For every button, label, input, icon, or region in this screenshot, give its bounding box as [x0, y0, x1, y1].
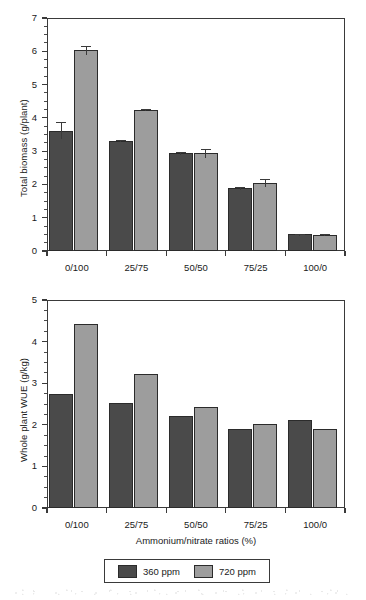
bar-whole-plant-wue-0-100-360ppm: [49, 394, 73, 508]
chart-legend: 360 ppm 720 ppm: [104, 559, 270, 583]
x-category-label: 75/25: [226, 519, 286, 530]
legend-item-360ppm: 360 ppm: [118, 565, 180, 578]
x-category-label: 25/75: [106, 519, 166, 530]
y-tick-label: 0: [21, 503, 37, 513]
legend-item-720ppm: 720 ppm: [194, 565, 256, 578]
y-minor-tick-mark: [44, 497, 47, 498]
y-tick-label: 2: [21, 420, 37, 430]
y-minor-tick-mark: [44, 445, 47, 446]
legend-swatch-720ppm: [194, 565, 213, 578]
y-minor-tick-mark: [44, 476, 47, 477]
y-minor-tick-mark: [44, 456, 47, 457]
figure-two-panel-bar-charts: Total biomass (g/plant)012345670/10025/7…: [0, 0, 366, 600]
bar-whole-plant-wue-50-50-360ppm: [169, 416, 193, 508]
chart-panel-whole-plant-wue: Whole plant WUE (g/kg)0123450/10025/7550…: [0, 0, 366, 600]
bar-whole-plant-wue-25-75-360ppm: [109, 403, 133, 508]
y-tick-label: 1: [21, 461, 37, 471]
x-axis-label-ammonium-nitrate-ratios: Ammonium/nitrate ratios (%): [47, 535, 345, 546]
bar-whole-plant-wue-25-75-720ppm: [134, 374, 158, 508]
x-category-label: 0/100: [47, 519, 107, 530]
y-tick-label: 3: [21, 378, 37, 388]
x-tick-mark: [344, 508, 345, 513]
scan-artifact-band: [0, 586, 366, 600]
y-tick-mark: [42, 383, 47, 384]
bar-whole-plant-wue-75-25-360ppm: [228, 429, 252, 508]
y-tick-mark: [42, 466, 47, 467]
x-tick-mark: [106, 508, 107, 513]
y-tick-label: 4: [21, 337, 37, 347]
y-axis-label-whole-plant-wue: Whole plant WUE (g/kg): [18, 358, 29, 462]
y-tick-mark: [42, 341, 47, 342]
x-tick-mark: [46, 508, 47, 513]
x-tick-mark: [166, 508, 167, 513]
y-minor-tick-mark: [44, 487, 47, 488]
x-category-label: 50/50: [166, 519, 226, 530]
y-tick-mark: [42, 424, 47, 425]
bar-whole-plant-wue-100-0-720ppm: [313, 429, 337, 508]
y-minor-tick-mark: [44, 393, 47, 394]
y-tick-mark: [42, 299, 47, 300]
y-minor-tick-mark: [44, 352, 47, 353]
bar-whole-plant-wue-50-50-720ppm: [194, 407, 218, 508]
y-minor-tick-mark: [44, 362, 47, 363]
y-tick-label: 5: [21, 295, 37, 305]
y-minor-tick-mark: [44, 310, 47, 311]
x-tick-mark: [225, 508, 226, 513]
y-minor-tick-mark: [44, 404, 47, 405]
y-minor-tick-mark: [44, 414, 47, 415]
x-tick-mark: [285, 508, 286, 513]
legend-swatch-360ppm: [118, 565, 137, 578]
y-minor-tick-mark: [44, 372, 47, 373]
legend-label-360ppm: 360 ppm: [143, 566, 180, 577]
bar-whole-plant-wue-75-25-720ppm: [253, 424, 277, 508]
y-minor-tick-mark: [44, 435, 47, 436]
bar-whole-plant-wue-100-0-360ppm: [288, 420, 312, 508]
legend-label-720ppm: 720 ppm: [219, 566, 256, 577]
y-minor-tick-mark: [44, 331, 47, 332]
y-minor-tick-mark: [44, 320, 47, 321]
bar-whole-plant-wue-0-100-720ppm: [74, 324, 98, 508]
x-category-label: 100/0: [285, 519, 345, 530]
